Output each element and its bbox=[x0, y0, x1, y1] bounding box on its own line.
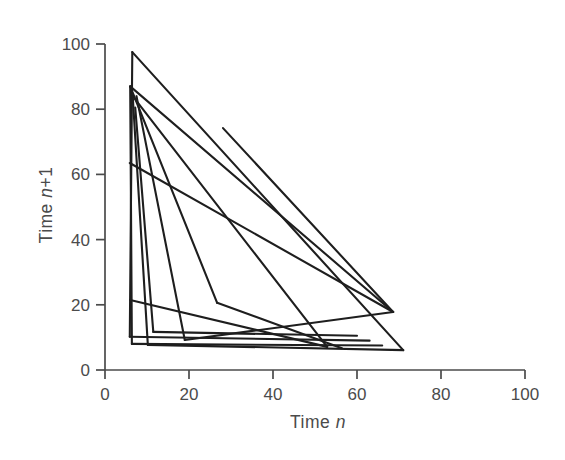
x-tick-label: 60 bbox=[348, 385, 367, 404]
x-tick-label: 100 bbox=[511, 385, 539, 404]
y-axis-title-suffix: +1 bbox=[36, 167, 56, 188]
x-tick-label: 0 bbox=[100, 385, 109, 404]
data-segments bbox=[130, 52, 403, 350]
data-segment bbox=[130, 163, 393, 312]
x-tick-label: 20 bbox=[180, 385, 199, 404]
y-tick-label: 0 bbox=[81, 361, 90, 380]
data-segment bbox=[223, 128, 393, 312]
data-segment bbox=[130, 86, 393, 312]
y-tick-label: 100 bbox=[62, 35, 90, 54]
y-axis-title: Time n+1 bbox=[36, 167, 56, 244]
y-axis-title-variable: n bbox=[36, 188, 56, 198]
y-axis-title-prefix: Time bbox=[36, 198, 56, 244]
data-segment bbox=[133, 96, 148, 345]
plot-svg: 020406080100020406080100 Time n Time n+1 bbox=[0, 0, 565, 460]
x-axis-title-variable: n bbox=[336, 412, 346, 432]
poincare-plot-figure: 020406080100020406080100 Time n Time n+1 bbox=[0, 0, 565, 460]
y-tick-label: 40 bbox=[71, 231, 90, 250]
x-tick-label: 80 bbox=[432, 385, 451, 404]
y-tick-label: 80 bbox=[71, 100, 90, 119]
y-tick-label: 20 bbox=[71, 296, 90, 315]
x-axis-title-prefix: Time bbox=[290, 412, 336, 432]
x-axis-title: Time n bbox=[290, 412, 346, 432]
x-tick-label: 40 bbox=[264, 385, 283, 404]
data-segment bbox=[130, 337, 370, 341]
data-segment bbox=[185, 312, 393, 340]
y-tick-label: 60 bbox=[71, 165, 90, 184]
data-segment bbox=[132, 52, 403, 350]
